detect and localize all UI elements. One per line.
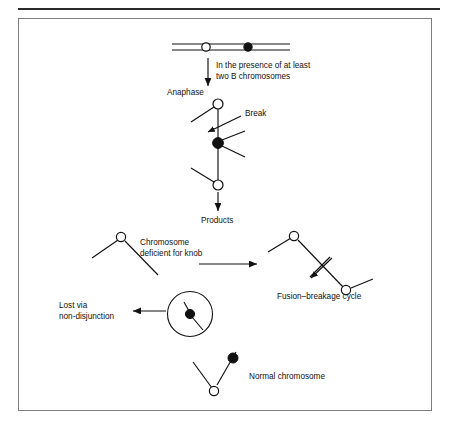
knob-deficient-chromosome-group: Chromosome deficient for knob [92, 232, 203, 275]
fusion-lower-right-arm [351, 279, 373, 288]
micronucleus-group: Lost via non-disjunction [59, 292, 213, 337]
anaphase-upper-arm [191, 107, 214, 122]
fusion-upper-left-arm [268, 238, 291, 252]
fusion-breakage-chromosome-group: Fusion–breakage cycle [268, 231, 373, 301]
normal-left-arm [193, 362, 212, 388]
anaphase-label: Anaphase [167, 88, 204, 97]
anaphase-bridge-group: Break [191, 99, 267, 190]
parent-chromosome-group [172, 43, 290, 51]
knob-open-circle [289, 231, 298, 240]
normal-chromosome-label: Normal chromosome [249, 372, 325, 381]
knob-open-circle [116, 232, 125, 241]
centromere-filled-circle [185, 309, 194, 318]
deficient-label-line2: deficient for knob [140, 249, 203, 258]
centromere-filled-circle [213, 138, 224, 149]
centromere-filled-circle [244, 43, 252, 51]
condition-label-line2: two B chromosomes [216, 72, 290, 81]
normal-chromosome-group: Normal chromosome [193, 352, 325, 396]
knob-open-circle [202, 43, 210, 51]
break-pointer-arrow [208, 116, 241, 132]
deficient-label-line1: Chromosome [140, 238, 190, 247]
knob-open-circle [209, 386, 218, 395]
break-label: Break [245, 109, 267, 118]
centromere-arm-lower-right [222, 146, 245, 157]
centromere-filled-circle [228, 353, 238, 363]
fusion-breakage-label: Fusion–breakage cycle [277, 292, 362, 301]
condition-arrow-group: In the presence of at least two B chromo… [208, 58, 311, 86]
fusion-break-arrow [311, 258, 332, 278]
figure-root: In the presence of at least two B chromo… [0, 0, 450, 428]
lost-label-line1: Lost via [59, 301, 88, 310]
fusion-break-slash [310, 257, 330, 277]
lost-label-line2: non-disjunction [59, 312, 115, 321]
deficient-left-arm [92, 240, 118, 258]
anaphase-lower-arm [191, 168, 214, 182]
products-arrow-group: Products [201, 192, 233, 225]
knob-open-circle [213, 180, 223, 190]
condition-label-line1: In the presence of at least [216, 61, 311, 70]
centromere-arm-upper-right [222, 131, 245, 140]
knob-open-circle [213, 99, 223, 109]
products-label: Products [201, 216, 233, 225]
chromosome-cycle-diagram: In the presence of at least two B chromo… [0, 0, 450, 428]
fusion-main-axis [298, 240, 343, 287]
